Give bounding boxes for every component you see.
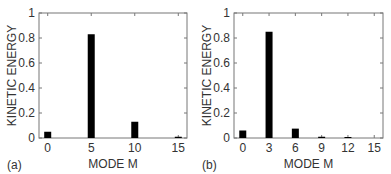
y-tick-label: 0.8 bbox=[213, 31, 230, 45]
panel-label: (b) bbox=[202, 158, 217, 172]
x-tick-label: 10 bbox=[128, 141, 142, 155]
y-tick-label: 0.8 bbox=[18, 31, 35, 45]
y-tick-label: 0.2 bbox=[213, 106, 230, 120]
bar bbox=[318, 137, 325, 138]
bar bbox=[266, 32, 273, 138]
y-tick-label: 0.4 bbox=[213, 81, 230, 95]
y-tick-label: 0.6 bbox=[18, 56, 35, 70]
x-tick-label: 6 bbox=[292, 141, 299, 155]
x-tick-label: 5 bbox=[88, 141, 95, 155]
x-tick-label: 15 bbox=[368, 141, 382, 155]
y-axis-label: KINETIC ENERGY bbox=[5, 25, 19, 126]
bar bbox=[239, 131, 246, 139]
bar bbox=[175, 137, 182, 138]
chart-panel-b: 00.20.40.60.8103691215MODE MKINETIC ENER… bbox=[195, 0, 391, 174]
x-tick-label: 12 bbox=[341, 141, 355, 155]
x-tick-label: 3 bbox=[266, 141, 273, 155]
chart-panel-a: 00.20.40.60.81051015MODE MKINETIC ENERGY… bbox=[0, 0, 195, 174]
y-tick-label: 1 bbox=[223, 6, 230, 20]
x-tick-label: 0 bbox=[44, 141, 51, 155]
y-tick-label: 0.2 bbox=[18, 106, 35, 120]
bar-chart-b: 00.20.40.60.8103691215MODE MKINETIC ENER… bbox=[195, 0, 391, 174]
x-axis-label: MODE M bbox=[284, 157, 333, 171]
plot-frame bbox=[234, 13, 383, 138]
bar-chart-a: 00.20.40.60.81051015MODE MKINETIC ENERGY… bbox=[0, 0, 195, 174]
y-tick-label: 0.4 bbox=[18, 81, 35, 95]
x-tick-label: 0 bbox=[239, 141, 246, 155]
panel-label: (a) bbox=[7, 158, 22, 172]
y-tick-label: 0 bbox=[223, 131, 230, 145]
x-tick-label: 9 bbox=[318, 141, 325, 155]
y-tick-label: 1 bbox=[28, 6, 35, 20]
bar bbox=[292, 129, 299, 138]
y-tick-label: 0 bbox=[28, 131, 35, 145]
x-tick-label: 15 bbox=[172, 141, 186, 155]
y-tick-label: 0.6 bbox=[213, 56, 230, 70]
bar bbox=[131, 122, 138, 138]
bar bbox=[44, 132, 51, 138]
bar bbox=[88, 34, 95, 138]
x-axis-label: MODE M bbox=[88, 157, 137, 171]
bar bbox=[344, 137, 351, 138]
y-axis-label: KINETIC ENERGY bbox=[200, 25, 214, 126]
plot-frame bbox=[39, 13, 187, 138]
